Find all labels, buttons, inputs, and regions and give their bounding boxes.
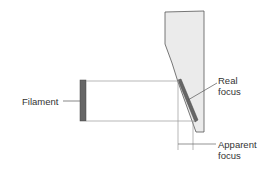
filament [80, 80, 86, 121]
anode-block [165, 11, 204, 132]
apparent-focus-label-line1: Apparent [218, 139, 257, 150]
filament-label-text: Filament [22, 96, 58, 107]
real-focus-label-line1: Real [218, 75, 241, 86]
real-focus-label: Real focus [218, 75, 241, 97]
real-focus-label-line2: focus [218, 86, 241, 97]
apparent-focus-label: Apparent focus [218, 139, 257, 161]
apparent-focus-label-line2: focus [218, 150, 257, 161]
filament-label: Filament [22, 96, 58, 107]
